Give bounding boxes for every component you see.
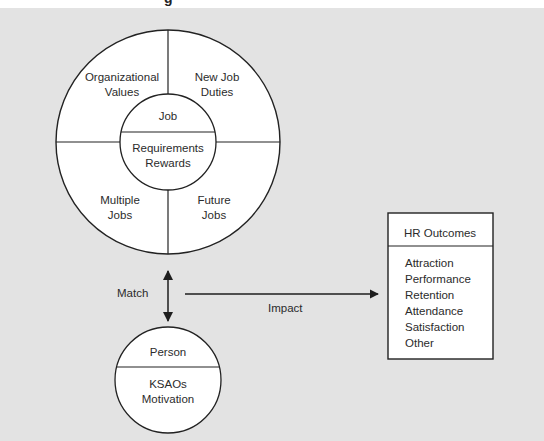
diagram-svg: Job Requirements Rewards Organizational … <box>0 0 544 441</box>
job-label: Job <box>159 110 178 122</box>
hr-outcomes-box: HR Outcomes Attraction Performance Reten… <box>388 213 493 359</box>
quadrant-new-job-duties-line1: New Job <box>195 71 240 83</box>
hr-outcome-item: Attendance <box>405 305 463 317</box>
impact-label: Impact <box>268 302 303 314</box>
hr-outcome-item: Retention <box>405 289 454 301</box>
quadrant-future-jobs-line1: Future <box>197 194 230 206</box>
match-label: Match <box>117 287 148 299</box>
hr-outcome-item: Other <box>405 337 434 349</box>
hr-outcome-item: Performance <box>405 273 471 285</box>
diagram-page: g Job Requirements Rewards Organizationa… <box>0 0 544 441</box>
quadrant-organizational-values-line1: Organizational <box>85 71 159 83</box>
quadrant-multiple-jobs-line1: Multiple <box>100 194 140 206</box>
quadrant-future-jobs-line2: Jobs <box>202 209 227 221</box>
quadrant-new-job-duties-line2: Duties <box>201 86 234 98</box>
hr-outcome-item: Satisfaction <box>405 321 464 333</box>
quadrant-organizational-values-line2: Values <box>105 86 140 98</box>
impact-connector: Impact <box>185 294 378 314</box>
rewards-label: Rewards <box>145 157 191 169</box>
person-title: Person <box>150 346 186 358</box>
match-connector: Match <box>117 271 168 321</box>
hr-outcome-item: Attraction <box>405 257 454 269</box>
quadrant-multiple-jobs-line2: Jobs <box>108 209 133 221</box>
person-ksaos: KSAOs <box>149 378 187 390</box>
hr-outcomes-title: HR Outcomes <box>404 227 476 239</box>
person-motivation: Motivation <box>142 393 194 405</box>
person-circle: Person KSAOs Motivation <box>115 327 221 433</box>
requirements-label: Requirements <box>132 142 204 154</box>
job-wheel: Job Requirements Rewards Organizational … <box>56 30 280 254</box>
